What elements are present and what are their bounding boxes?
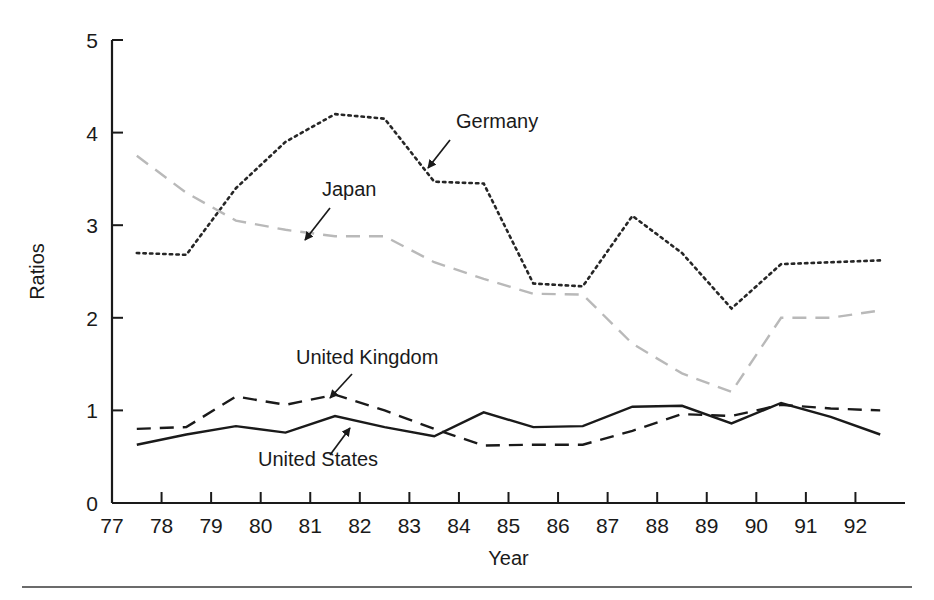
annotation-label-germany: Germany	[456, 110, 538, 132]
x-tick-label: 86	[546, 514, 569, 537]
x-tick-label: 88	[646, 514, 669, 537]
x-tick-label: 80	[249, 514, 272, 537]
y-axis-title: Ratios	[26, 243, 48, 300]
annotation-label-japan: Japan	[322, 178, 377, 200]
x-tick-label: 85	[497, 514, 520, 537]
x-tick-label: 81	[299, 514, 322, 537]
x-tick-label: 83	[398, 514, 421, 537]
y-tick-label: 4	[86, 122, 98, 145]
x-tick-label: 87	[596, 514, 619, 537]
annotation-arrow-germany	[428, 140, 450, 168]
line-chart: 01234577787980818283848586878889909192Ra…	[0, 0, 934, 600]
x-tick-label: 78	[150, 514, 173, 537]
annotation-label-united-kingdom: United Kingdom	[296, 346, 438, 368]
y-tick-label: 0	[86, 492, 98, 515]
annotation-arrow-united-kingdom	[330, 374, 352, 398]
x-tick-label: 92	[844, 514, 867, 537]
series-line-united-states	[137, 403, 880, 445]
y-tick-label: 5	[86, 29, 98, 52]
x-axis-title: Year	[488, 547, 529, 569]
x-tick-label: 82	[348, 514, 371, 537]
x-tick-label: 84	[447, 514, 471, 537]
data-series	[137, 114, 880, 446]
annotation-label-united-states: United States	[258, 448, 378, 470]
x-tick-label: 91	[794, 514, 817, 537]
x-tick-label: 77	[100, 514, 123, 537]
x-tick-label: 79	[199, 514, 222, 537]
x-tick-label: 90	[745, 514, 768, 537]
chart-figure: 01234577787980818283848586878889909192Ra…	[0, 0, 934, 600]
series-line-germany	[137, 114, 880, 308]
y-tick-label: 2	[86, 307, 98, 330]
y-tick-label: 1	[86, 399, 98, 422]
x-tick-label: 89	[695, 514, 718, 537]
y-tick-label: 3	[86, 214, 98, 237]
